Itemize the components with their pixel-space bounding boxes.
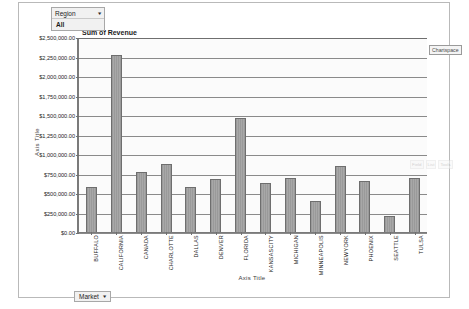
- bar[interactable]: [384, 216, 395, 232]
- bar[interactable]: [235, 118, 246, 232]
- x-label-slot: MICHIGAN: [277, 235, 302, 273]
- x-label-slot: CHARLOTTE: [152, 235, 177, 273]
- y-tick-label: $0.00: [23, 230, 79, 236]
- ghost-toolbar-item[interactable]: Field: [410, 160, 424, 169]
- bar[interactable]: [335, 166, 346, 232]
- bar[interactable]: [260, 183, 271, 232]
- x-label-slot: CANADA: [127, 235, 152, 273]
- chevron-down-icon[interactable]: ▾: [98, 8, 102, 19]
- x-axis-category-label: KANSASCITY: [268, 235, 274, 272]
- bar-slot: [154, 38, 179, 232]
- x-label-slot: NEWYORK: [327, 235, 352, 273]
- x-axis-category-label: CHARLOTTE: [168, 235, 174, 270]
- x-axis-category-label: PHOENIX: [368, 235, 374, 261]
- bar-slot: [228, 38, 253, 232]
- x-axis-category-label: DENVER: [218, 235, 224, 259]
- x-axis-title: Axis Title: [77, 275, 427, 281]
- ghost-toolbar[interactable]: FieldListTools: [410, 160, 468, 168]
- bar-slot: [79, 38, 104, 232]
- bar[interactable]: [359, 181, 370, 232]
- x-axis-labels: BUFFALOCALIFORNIACANADACHARLOTTEDALLASDE…: [77, 235, 427, 273]
- x-axis-category-label: MICHIGAN: [293, 235, 299, 264]
- bar[interactable]: [409, 178, 420, 232]
- x-axis-category-label: FLORIDA: [243, 235, 249, 260]
- y-tick-label: $250,000.00: [23, 211, 79, 217]
- x-axis-category-label: SEATTLE: [393, 235, 399, 261]
- chartspace-tag[interactable]: Chartspace: [429, 45, 462, 55]
- x-label-slot: TULSA: [402, 235, 427, 273]
- bar[interactable]: [185, 187, 196, 232]
- bars-layer: [79, 38, 427, 232]
- x-axis-category-label: TULSA: [418, 235, 424, 254]
- market-field-label: Market: [79, 291, 99, 302]
- ghost-toolbar-item[interactable]: List: [426, 160, 437, 169]
- x-label-slot: CALIFORNIA: [102, 235, 127, 273]
- bar-slot: [129, 38, 154, 232]
- bar-slot: [178, 38, 203, 232]
- region-filter-dropdown[interactable]: Region ▾ All: [51, 7, 105, 31]
- bar-slot: [278, 38, 303, 232]
- plot-area: $2,500,000.00$2,250,000.00$2,000,000.00$…: [77, 38, 427, 233]
- y-tick-label: $1,750,000.00: [23, 94, 79, 100]
- bar[interactable]: [86, 187, 97, 232]
- x-axis-category-label: CALIFORNIA: [118, 235, 124, 270]
- x-label-slot: DALLAS: [177, 235, 202, 273]
- region-filter-value: All: [55, 19, 64, 30]
- bar-slot: [352, 38, 377, 232]
- y-tick-label: $2,000,000.00: [23, 74, 79, 80]
- x-label-slot: MINNEAPOLIS: [302, 235, 327, 273]
- region-filter-header[interactable]: Region ▾: [52, 8, 104, 19]
- x-axis-category-label: NEWYORK: [343, 235, 349, 265]
- bar[interactable]: [285, 178, 296, 232]
- bar-slot: [104, 38, 129, 232]
- bar[interactable]: [210, 179, 221, 232]
- x-label-slot: KANSASCITY: [252, 235, 277, 273]
- chartspace-tag-label: Chartspace: [432, 45, 459, 55]
- y-tick-label: $1,250,000.00: [23, 133, 79, 139]
- screenshot-root: Region ▾ All Sum of Revenue Axis Title $…: [0, 0, 469, 309]
- x-label-slot: SEATTLE: [377, 235, 402, 273]
- x-label-slot: PHOENIX: [352, 235, 377, 273]
- y-tick-label: $1,000,000.00: [23, 152, 79, 158]
- bar[interactable]: [111, 55, 122, 232]
- chevron-down-icon[interactable]: ▾: [102, 291, 106, 302]
- bar-slot: [253, 38, 278, 232]
- y-tick-label: $2,500,000.00: [23, 35, 79, 41]
- bar[interactable]: [161, 164, 172, 232]
- x-label-slot: BUFFALO: [77, 235, 102, 273]
- bar-slot: [377, 38, 402, 232]
- y-tick-label: $750,000.00: [23, 172, 79, 178]
- y-tick-label: $500,000.00: [23, 191, 79, 197]
- bar-slot: [402, 38, 427, 232]
- bar[interactable]: [136, 172, 147, 232]
- ghost-toolbar-item[interactable]: Tools: [438, 160, 452, 169]
- x-axis-category-label: CANADA: [143, 235, 149, 259]
- bar[interactable]: [310, 201, 321, 232]
- x-axis-category-label: DALLAS: [193, 235, 199, 257]
- region-filter-label: Region: [55, 8, 76, 19]
- bar-slot: [203, 38, 228, 232]
- market-field-button[interactable]: Market ▾: [74, 291, 111, 302]
- gridline: [79, 233, 427, 234]
- bar-slot: [303, 38, 328, 232]
- region-filter-value-row[interactable]: All: [52, 19, 104, 30]
- y-tick-label: $1,500,000.00: [23, 113, 79, 119]
- x-label-slot: DENVER: [202, 235, 227, 273]
- bar-slot: [328, 38, 353, 232]
- chartspace-frame: Region ▾ All Sum of Revenue Axis Title $…: [18, 2, 450, 298]
- x-label-slot: FLORIDA: [227, 235, 252, 273]
- x-axis-category-label: BUFFALO: [93, 235, 99, 262]
- y-tick-label: $2,250,000.00: [23, 55, 79, 61]
- y-axis-title: Axis Title: [34, 118, 40, 166]
- x-axis-category-label: MINNEAPOLIS: [318, 235, 324, 275]
